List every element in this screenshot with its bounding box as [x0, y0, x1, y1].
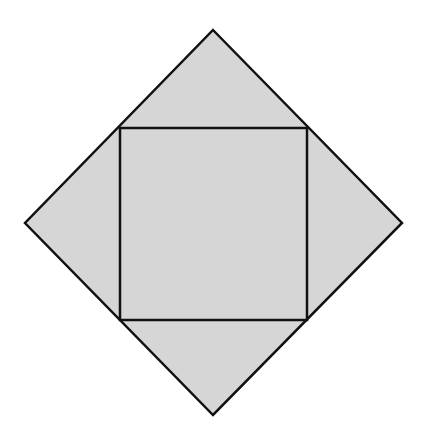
inner-square [120, 128, 307, 320]
diagram-canvas [0, 0, 422, 447]
